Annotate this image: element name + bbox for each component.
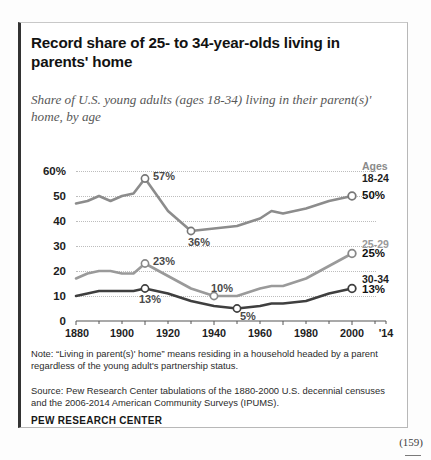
- annotation-36-percent: 36%: [188, 236, 210, 248]
- legend-30-34-value: 13%: [362, 284, 385, 296]
- marker-25-29-1940: [141, 260, 148, 267]
- x-tick-1920: 1920: [148, 327, 188, 339]
- x-tick-1940: 1940: [194, 327, 234, 339]
- chart-subtitle: Share of U.S. young adults (ages 18-34) …: [31, 91, 381, 125]
- marker-18-24-1940: [141, 175, 148, 182]
- chart-source: Source: Pew Research Center tabulations …: [31, 385, 396, 410]
- brand-footer: PEW RESEARCH CENTER: [31, 415, 162, 426]
- page-rule: [405, 455, 421, 456]
- page-title: Record share of 25- to 34-year-olds livi…: [31, 33, 376, 71]
- chart-card: Record share of 25- to 34-year-olds livi…: [18, 22, 408, 428]
- legend-ages-word: Ages: [362, 161, 388, 173]
- legend-18-24-value: 50%: [362, 190, 385, 202]
- x-axis-ticks: [76, 321, 386, 325]
- marker-18-24-2014: [348, 192, 356, 200]
- annotation-10-percent: 10%: [211, 282, 233, 294]
- x-tick-1880: 1880: [57, 327, 97, 339]
- annotation-23-percent: 23%: [153, 255, 175, 267]
- legend-18-24-range: 18-24: [362, 173, 389, 185]
- x-tick-1900: 1900: [102, 327, 142, 339]
- marker-18-24-1960: [187, 227, 194, 234]
- marker-30-34-1940: [141, 285, 148, 292]
- x-tick-2014: '14: [366, 327, 406, 339]
- x-tick-1960: 1960: [240, 327, 280, 339]
- x-tick-1980: 1980: [286, 327, 326, 339]
- series-line-18-24: [76, 179, 352, 232]
- annotation-57-percent: 57%: [153, 170, 175, 182]
- page-number: (159): [399, 436, 423, 448]
- annotation-13-percent: 13%: [139, 293, 161, 305]
- page-canvas: Record share of 25- to 34-year-olds livi…: [0, 0, 431, 460]
- series-lines-svg: [21, 133, 411, 333]
- marker-25-29-2014: [348, 250, 356, 258]
- chart-note: Note: “Living in parent(s)' home” means …: [31, 348, 391, 373]
- annotation-5-percent: 5%: [240, 310, 256, 322]
- legend-25-29-value: 25%: [362, 248, 385, 260]
- marker-30-34-2014: [348, 285, 356, 293]
- chart-plot-area: 60% 50 40 30 20 10 0: [21, 133, 411, 333]
